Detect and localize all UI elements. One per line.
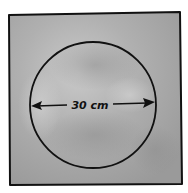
diagram-canvas: 30 cm [0,0,188,193]
dimension-label: 30 cm [71,99,108,112]
